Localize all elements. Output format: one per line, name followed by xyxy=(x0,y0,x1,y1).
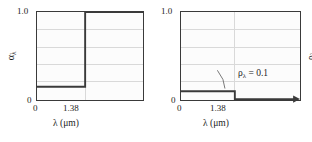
rho-x-axis-label: λ (μm) xyxy=(203,119,229,129)
rho-step-curve xyxy=(181,12,300,100)
alpha-y-axis-subscript: λ xyxy=(10,52,18,56)
rho-plot-frame xyxy=(180,11,301,101)
rho-panel: 1.0 0 0 1.38 λ (μm) ρλ ρλ = 0.1 xyxy=(156,0,312,142)
alpha-ytick-top: 1.0 xyxy=(17,7,28,16)
rho-ytick-top: 1.0 xyxy=(161,7,172,16)
alpha-xtick-138: 1.38 xyxy=(63,104,79,113)
figure-root: 1.0 0 0 1.38 λ (μm) αλ 1.0 0 0 1.38 λ (μ… xyxy=(0,0,312,142)
rho-annotation-value: = 0.1 xyxy=(246,68,268,78)
rho-y-axis-subscript: λ xyxy=(310,52,312,56)
alpha-step-curve xyxy=(37,12,143,100)
rho-value-annotation: ρλ = 0.1 xyxy=(238,69,268,79)
alpha-plot-frame xyxy=(36,11,144,101)
alpha-panel: 1.0 0 0 1.38 λ (μm) αλ xyxy=(0,0,156,142)
alpha-x-axis-label: λ (μm) xyxy=(53,119,79,129)
alpha-ytick-bottom: 0 xyxy=(27,96,32,105)
rho-xtick-138: 1.38 xyxy=(210,104,226,113)
alpha-xtick-0: 0 xyxy=(33,104,38,113)
rho-y-axis-label: ρλ xyxy=(306,46,312,66)
alpha-y-axis-label: αλ xyxy=(6,46,18,66)
rho-ytick-bottom: 0 xyxy=(171,96,176,105)
rho-y-axis-symbol: ρ xyxy=(305,55,312,60)
alpha-y-axis-symbol: α xyxy=(5,55,16,60)
rho-xtick-0: 0 xyxy=(177,104,182,113)
